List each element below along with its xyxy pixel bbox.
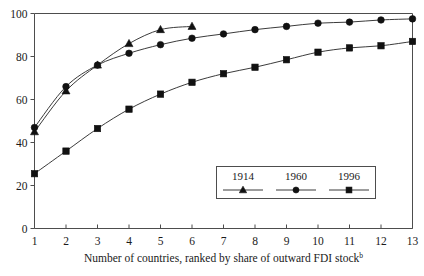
y-tick-label: 20 — [16, 180, 28, 192]
caption-main: Number of countries, ranked by share of … — [84, 252, 360, 265]
data-point-circle — [157, 41, 164, 48]
x-tick-label: 13 — [407, 235, 419, 247]
data-point-square — [63, 148, 69, 154]
x-tick-label: 9 — [284, 235, 290, 247]
chart-legend: 191419601996 — [217, 167, 376, 199]
data-point-square — [252, 64, 258, 70]
data-point-square — [346, 187, 352, 193]
x-tick-label: 1 — [32, 235, 38, 247]
data-point-circle — [126, 50, 133, 57]
data-point-square — [315, 49, 321, 55]
data-point-circle — [63, 83, 70, 90]
x-axis-caption: Number of countries, ranked by share of … — [84, 251, 363, 265]
legend-label: 1914 — [232, 170, 255, 182]
data-point-square — [378, 43, 384, 49]
data-point-square — [220, 71, 226, 77]
data-point-circle — [378, 17, 385, 24]
data-point-circle — [346, 19, 353, 26]
data-point-square — [126, 106, 132, 112]
data-point-square — [94, 125, 100, 131]
data-point-square — [346, 45, 352, 51]
legend-label: 1996 — [338, 170, 361, 182]
x-tick-label: 3 — [95, 235, 101, 247]
data-point-circle — [315, 20, 322, 27]
x-axis-caption-text: Number of countries, ranked by share of … — [84, 251, 363, 265]
x-tick-label: 7 — [221, 235, 227, 247]
chart-figure: 020406080100 12345678910111213 191419601… — [0, 0, 424, 276]
x-tick-label: 10 — [312, 235, 324, 247]
y-tick-label: 100 — [10, 8, 28, 20]
data-point-circle — [220, 31, 227, 38]
caption-superscript: b — [359, 251, 363, 260]
y-tick-label: 60 — [16, 94, 28, 106]
x-tick-label: 5 — [158, 235, 164, 247]
data-point-circle — [283, 23, 290, 30]
data-point-circle — [94, 62, 101, 69]
y-tick-label: 0 — [22, 223, 28, 235]
data-point-square — [409, 38, 415, 44]
data-point-circle — [189, 35, 196, 42]
x-tick-label: 2 — [63, 235, 69, 247]
data-point-circle — [409, 16, 416, 23]
x-tick-label: 11 — [344, 235, 355, 247]
x-tick-label: 4 — [126, 235, 132, 247]
x-tick-label: 8 — [252, 235, 258, 247]
y-tick-label: 80 — [16, 51, 28, 63]
data-point-circle — [252, 26, 259, 33]
x-tick-label: 6 — [189, 235, 195, 247]
data-point-circle — [293, 187, 299, 193]
data-point-square — [31, 170, 37, 176]
data-point-circle — [31, 124, 38, 131]
legend-label: 1960 — [285, 170, 308, 182]
x-tick-label: 12 — [375, 235, 387, 247]
data-point-square — [189, 79, 195, 85]
data-point-square — [283, 57, 289, 63]
data-point-square — [157, 91, 163, 97]
line-chart: 020406080100 12345678910111213 191419601… — [0, 0, 424, 276]
y-tick-label: 40 — [16, 137, 28, 149]
